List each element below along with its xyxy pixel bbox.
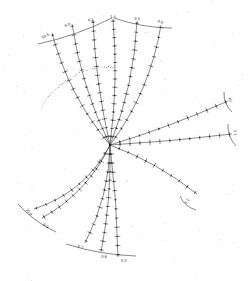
speck <box>27 41 28 42</box>
ray-node <box>115 78 116 79</box>
arc-dot <box>78 74 79 75</box>
ray-node <box>72 26 73 27</box>
arc-dot <box>94 68 95 69</box>
ray-node <box>115 208 116 209</box>
speck <box>242 74 243 75</box>
ray-node <box>112 120 113 121</box>
ray-node <box>96 168 97 169</box>
ray-node <box>58 53 59 54</box>
ray-node <box>107 172 108 173</box>
ray-node <box>156 47 157 48</box>
speck <box>83 66 84 67</box>
ray-node <box>128 152 129 153</box>
ray-node <box>114 95 115 96</box>
speck <box>237 247 238 248</box>
ray-node <box>102 241 103 242</box>
arc-dot <box>65 80 66 81</box>
speck <box>54 8 55 9</box>
arc-dot <box>98 67 99 68</box>
speck <box>85 67 86 68</box>
ray-node <box>97 75 98 76</box>
ray-node <box>89 232 90 233</box>
speck <box>118 220 119 221</box>
speck <box>6 49 7 50</box>
ray-node <box>114 190 115 191</box>
scale-label-ray-3: 6.1 <box>88 17 94 23</box>
speck <box>161 87 162 88</box>
speck <box>59 43 60 44</box>
ray-node <box>79 183 80 184</box>
ray-node <box>52 35 53 36</box>
speck <box>234 218 235 219</box>
speck <box>139 29 140 30</box>
ray-node <box>104 153 105 154</box>
arc-dot <box>92 68 93 69</box>
ray-node <box>145 160 146 161</box>
arc-dot <box>89 69 90 70</box>
speck <box>28 276 29 277</box>
ray-node <box>43 216 44 217</box>
arc-dot <box>54 91 55 92</box>
ray-node <box>71 189 72 190</box>
ray-node <box>98 83 99 84</box>
arc-dot <box>102 67 103 68</box>
speck <box>153 179 154 180</box>
ray-node <box>197 114 198 115</box>
ray-node <box>119 144 120 145</box>
speck <box>16 93 17 94</box>
ray-node <box>114 87 115 88</box>
speck <box>93 65 94 66</box>
ray-node <box>93 30 94 31</box>
arc-dot <box>68 78 69 79</box>
ray-node <box>87 113 88 114</box>
speck <box>214 45 215 46</box>
arc-dot <box>81 71 82 72</box>
ray-node <box>153 56 154 57</box>
ray-node <box>115 199 116 200</box>
ray-node <box>206 110 207 111</box>
ray-node <box>117 245 118 246</box>
ray-node <box>168 125 169 126</box>
ray-node <box>147 75 148 76</box>
speck <box>117 48 118 49</box>
ray-node <box>108 136 109 137</box>
speck <box>150 64 151 65</box>
ray-node <box>109 180 110 181</box>
ray-node <box>119 119 120 120</box>
speck <box>219 239 220 240</box>
ray-node <box>104 232 105 233</box>
ray-node <box>108 197 109 198</box>
ray-node <box>85 182 86 183</box>
ray-node <box>136 32 137 33</box>
speck <box>105 246 106 247</box>
speck <box>121 229 122 230</box>
ray-node <box>99 92 100 93</box>
speck <box>139 29 140 30</box>
ray-node <box>159 141 160 142</box>
ray-node <box>96 215 97 216</box>
ray-node <box>109 188 110 189</box>
ray-node <box>117 236 118 237</box>
speck <box>40 279 41 280</box>
ray-node <box>149 132 150 133</box>
ray-node <box>92 22 93 23</box>
ray-node <box>219 135 220 136</box>
speck <box>173 260 174 261</box>
arc-dot <box>74 76 75 77</box>
ray-node <box>79 189 80 190</box>
speck <box>127 180 128 181</box>
ray-node <box>126 119 127 120</box>
speck <box>61 232 62 233</box>
ray-node <box>93 224 94 225</box>
ray-node <box>195 192 196 193</box>
ray-node <box>73 195 74 196</box>
ray-node <box>115 70 116 71</box>
ray-node <box>179 180 180 181</box>
speck <box>135 70 136 71</box>
arc-dot <box>45 101 46 102</box>
ray-node <box>135 40 136 41</box>
arc-dot <box>100 67 101 68</box>
arc-dot <box>114 67 115 68</box>
speck <box>151 60 152 61</box>
ray-node <box>98 120 99 121</box>
